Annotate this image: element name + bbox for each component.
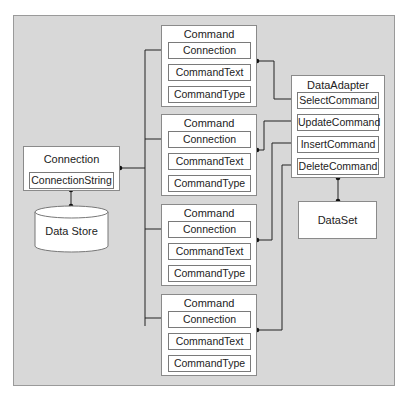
- command-text-property: CommandText: [168, 64, 251, 81]
- connection-title: Connection: [24, 153, 119, 165]
- command-type-property: CommandType: [168, 175, 251, 192]
- connection-string-property: ConnectionString: [29, 172, 114, 189]
- connection-object: Connection ConnectionString: [23, 146, 120, 191]
- command-object: Command Connection CommandText CommandTy…: [161, 294, 257, 376]
- update-command-property: UpdateCommand: [297, 114, 379, 131]
- command-connection-property: Connection: [168, 131, 251, 148]
- command-title: Command: [162, 207, 256, 219]
- command-connection-property: Connection: [168, 311, 251, 328]
- data-adapter-object: DataAdapter SelectCommand UpdateCommand …: [291, 75, 385, 178]
- command-object: Command Connection CommandText CommandTy…: [161, 114, 257, 196]
- data-set-label: DataSet: [299, 214, 376, 226]
- command-title: Command: [162, 297, 256, 309]
- command-object: Command Connection CommandText CommandTy…: [161, 204, 257, 286]
- command-type-property: CommandType: [168, 86, 251, 103]
- command-text-property: CommandText: [168, 243, 251, 260]
- delete-command-property: DeleteCommand: [297, 158, 379, 175]
- command-type-property: CommandType: [168, 265, 251, 282]
- command-object: Command Connection CommandText CommandTy…: [161, 25, 257, 107]
- command-text-property: CommandText: [168, 153, 251, 170]
- select-command-property: SelectCommand: [297, 92, 379, 109]
- wire-cmd4-delete: [257, 165, 297, 330]
- data-set-object: DataSet: [298, 201, 377, 239]
- insert-command-property: InsertCommand: [297, 136, 379, 153]
- data-store-label: Data Store: [35, 225, 108, 237]
- command-type-property: CommandType: [168, 355, 251, 372]
- command-connection-property: Connection: [168, 42, 251, 59]
- command-text-property: CommandText: [168, 333, 251, 350]
- command-title: Command: [162, 28, 256, 40]
- command-title: Command: [162, 117, 256, 129]
- data-adapter-title: DataAdapter: [292, 79, 384, 91]
- command-connection-property: Connection: [168, 221, 251, 238]
